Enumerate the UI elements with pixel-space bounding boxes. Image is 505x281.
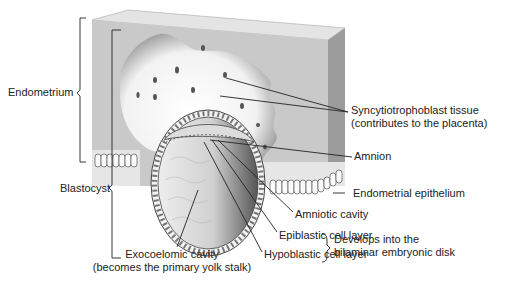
- label-blastocyst: Blastocyst: [60, 182, 110, 195]
- label-syncytiotrophoblast-line2: (contributes to the placenta): [351, 117, 487, 130]
- label-exocoelomic-line1: Exocoelomic cavity: [92, 248, 252, 261]
- label-amnion: Amnion: [354, 150, 391, 163]
- blastocyst-illustration: [0, 0, 505, 281]
- diagram-canvas: Endometrium Blastocyst Syncytiotrophobla…: [0, 0, 505, 281]
- label-syncytiotrophoblast-line1: Syncytiotrophoblast tissue: [351, 104, 479, 117]
- label-develops-line2: bilaminar embryonic disk: [334, 246, 455, 259]
- endometrium-bracket: [77, 18, 86, 162]
- label-exocoelomic-line2: (becomes the primary yolk stalk): [92, 261, 252, 274]
- label-amniotic-cavity: Amniotic cavity: [295, 208, 368, 221]
- label-develops-line1: Develops into the: [334, 233, 419, 246]
- label-endometrial-epithelium: Endometrial epithelium: [353, 187, 465, 200]
- label-endometrium: Endometrium: [8, 86, 73, 99]
